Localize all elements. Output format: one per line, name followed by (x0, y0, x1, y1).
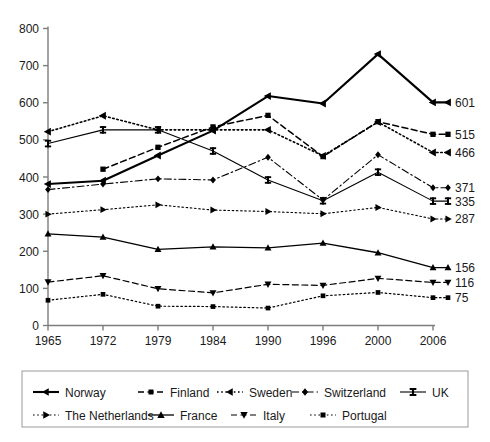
legend-marker (149, 390, 154, 395)
end-value-label: 515 (455, 128, 475, 142)
data-point-marker (155, 201, 161, 208)
y-axis-tick-label: 0 (32, 319, 39, 333)
end-marker (445, 184, 451, 191)
data-point-marker (155, 175, 161, 182)
data-point-marker (45, 279, 52, 285)
data-point-marker (430, 132, 435, 137)
legend-marker (321, 413, 326, 418)
series-switzerland (45, 151, 451, 203)
legend-label: Italy (263, 409, 285, 423)
data-point-marker (265, 113, 270, 118)
end-value-label: 75 (455, 291, 469, 305)
data-point-marker (321, 293, 326, 298)
end-value-label: 287 (455, 212, 475, 226)
y-axis-tick-label: 600 (19, 96, 39, 110)
data-point-marker (99, 112, 106, 120)
data-point-marker (430, 184, 436, 191)
data-point-marker (375, 168, 381, 176)
chart-svg: 0100200300400500600700800 19651972197919… (0, 0, 490, 442)
end-value-label: 156 (455, 261, 475, 275)
x-axis-tick-label: 1996 (310, 334, 337, 348)
x-axis-tick-label: 2006 (420, 334, 447, 348)
data-point-marker (266, 306, 271, 311)
data-point-marker (264, 126, 271, 134)
series-the-netherlands (45, 201, 451, 222)
x-axis-tick-label: 1965 (35, 334, 62, 348)
x-axis-tick-label: 1972 (90, 334, 117, 348)
series-line (48, 276, 448, 293)
y-axis-tick-label: 700 (19, 59, 39, 73)
x-axis: 19651972197919841990199620002006 (35, 326, 447, 348)
series-line (48, 116, 448, 156)
line-chart: 0100200300400500600700800 19651972197919… (0, 0, 490, 442)
x-axis-tick-label: 2000 (365, 334, 392, 348)
legend-label: Portugal (342, 409, 387, 423)
data-point-marker (265, 176, 271, 184)
series-portugal (46, 290, 451, 310)
end-marker (444, 98, 451, 106)
series-line (48, 292, 448, 308)
data-point-marker (429, 149, 436, 157)
y-axis-tick-label: 500 (19, 133, 39, 147)
data-point-marker (265, 208, 271, 215)
data-point-marker (210, 147, 216, 155)
end-value-label: 335 (455, 195, 475, 209)
end-value-label: 601 (455, 96, 475, 110)
y-axis-tick-label: 300 (19, 208, 39, 222)
data-point-marker (430, 216, 436, 223)
series-line (103, 115, 448, 169)
legend-label: UK (432, 386, 449, 400)
data-point-marker (320, 210, 326, 217)
series-italy (45, 273, 452, 296)
data-point-marker (155, 145, 160, 150)
data-point-marker (101, 292, 106, 297)
data-point-marker (319, 100, 326, 108)
data-point-marker (100, 167, 105, 172)
data-point-marker (210, 207, 216, 214)
end-value-label: 371 (455, 181, 475, 195)
data-point-marker (375, 151, 381, 158)
end-marker (445, 216, 451, 223)
legend-label: The Netherlands (65, 409, 154, 423)
end-marker (445, 132, 450, 137)
data-point-marker (211, 304, 216, 309)
legend-label: Finland (170, 386, 209, 400)
end-value-labels: 60151546637133528715611675 (455, 96, 475, 305)
end-marker (444, 149, 451, 157)
end-value-label: 116 (455, 276, 474, 290)
data-point-marker (431, 295, 436, 300)
data-point-marker (320, 239, 327, 245)
series-line (48, 234, 448, 268)
legend-label: Norway (65, 386, 106, 400)
data-point-marker (154, 152, 161, 160)
y-axis-tick-label: 800 (19, 22, 39, 36)
y-axis-tick-label: 400 (19, 171, 39, 185)
data-series-layer (44, 50, 452, 310)
x-axis-tick-label: 1984 (200, 334, 227, 348)
y-axis: 0100200300400500600700800 (19, 22, 48, 333)
data-point-marker (46, 298, 51, 303)
data-point-marker (210, 290, 217, 296)
legend-label: France (180, 409, 218, 423)
legend-label: Sweden (249, 386, 292, 400)
data-point-marker (100, 206, 106, 213)
chart-legend: NorwayFinlandSwedenSwitzerlandUKThe Neth… (22, 371, 468, 427)
data-point-marker (375, 204, 381, 211)
series-line (48, 205, 448, 219)
x-axis-tick-label: 1979 (145, 334, 172, 348)
series-france (45, 230, 452, 270)
end-marker (446, 295, 451, 300)
series-line (48, 130, 448, 201)
data-point-marker (156, 304, 161, 309)
y-axis-tick-label: 100 (19, 282, 39, 296)
data-point-marker (265, 154, 271, 161)
series-uk (45, 126, 451, 205)
data-point-marker (210, 177, 216, 184)
legend-label: Switzerland (324, 386, 386, 400)
x-axis-tick-label: 1990 (255, 334, 282, 348)
data-point-marker (376, 290, 381, 295)
end-value-label: 466 (455, 146, 475, 160)
y-axis-tick-label: 200 (19, 245, 39, 259)
